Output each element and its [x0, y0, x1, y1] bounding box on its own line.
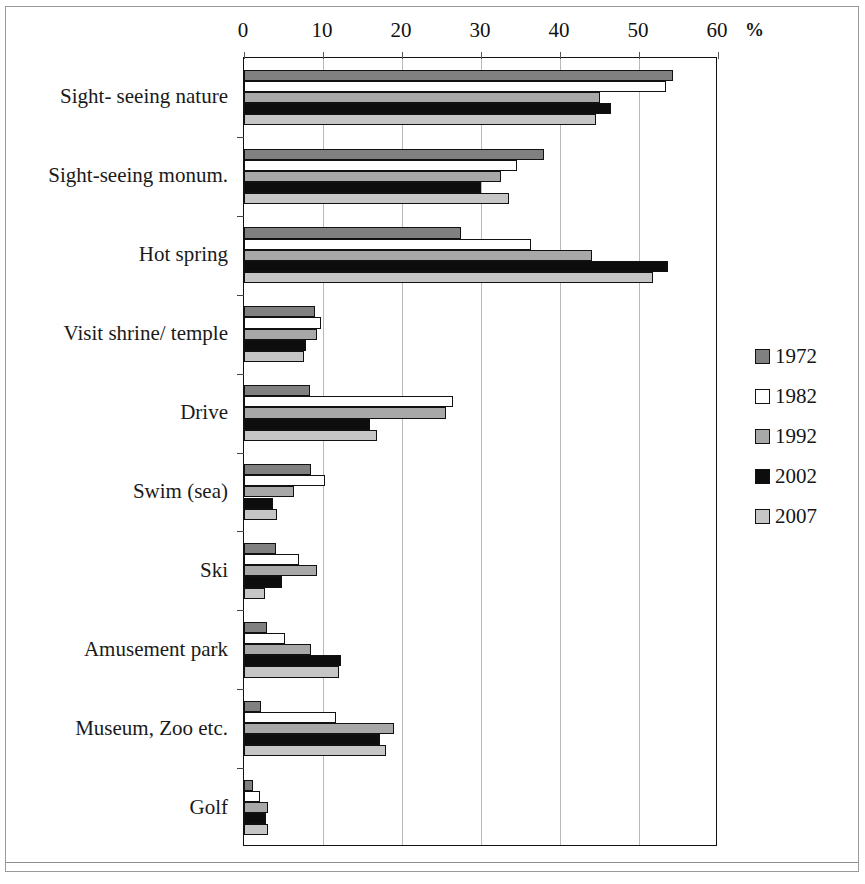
- category-band: [244, 137, 716, 216]
- category-label-text: Amusement park: [84, 638, 236, 660]
- category-label: Sight-seeing monum.: [0, 164, 236, 186]
- legend-item-1992: 1992: [755, 421, 855, 452]
- legend-label: 1992: [775, 426, 817, 447]
- category-band: [244, 768, 716, 847]
- bar-1982: [244, 633, 285, 644]
- legend-label: 2002: [775, 466, 817, 487]
- category-band: [244, 295, 716, 374]
- category-label: Visit shrine/ temple: [0, 322, 236, 344]
- bar-1992: [244, 486, 294, 497]
- bar-1972: [244, 385, 310, 396]
- category-label: Museum, Zoo etc.: [0, 717, 236, 739]
- bar-2007: [244, 745, 386, 756]
- bar-1992: [244, 92, 600, 103]
- x-axis-tick-mark: [718, 52, 719, 59]
- bar-2007: [244, 272, 653, 283]
- bar-1972: [244, 149, 544, 160]
- bar-1992: [244, 407, 446, 418]
- bar-1992: [244, 250, 592, 261]
- bar-2002: [244, 182, 481, 193]
- bar-1982: [244, 160, 517, 171]
- x-tick-label: 10: [312, 16, 333, 44]
- category-band: [244, 216, 716, 295]
- bar-1982: [244, 791, 260, 802]
- category-axis-tick: [237, 374, 244, 375]
- chart-legend: 19721982199220022007: [755, 341, 855, 541]
- legend-label: 2007: [775, 506, 817, 527]
- bar-1992: [244, 171, 501, 182]
- category-band: [244, 453, 716, 532]
- bar-2002: [244, 419, 370, 430]
- category-band: [244, 689, 716, 768]
- category-label-text: Hot spring: [139, 243, 236, 265]
- bar-1992: [244, 723, 394, 734]
- axis-unit-label: %: [745, 16, 764, 44]
- bar-2002: [244, 734, 380, 745]
- legend-label: 1982: [775, 386, 817, 407]
- bar-1972: [244, 780, 253, 791]
- category-label-text: Drive: [180, 401, 236, 423]
- bar-1982: [244, 475, 325, 486]
- bar-2007: [244, 430, 377, 441]
- x-tick-label: 50: [628, 16, 649, 44]
- legend-label: 1972: [775, 346, 817, 367]
- legend-swatch-icon: [755, 509, 770, 524]
- bar-1972: [244, 70, 673, 81]
- legend-item-2002: 2002: [755, 461, 855, 492]
- bar-2002: [244, 498, 273, 509]
- figure-bottom-rule: [6, 862, 858, 863]
- category-label: Drive: [0, 401, 236, 423]
- bar-1992: [244, 565, 317, 576]
- category-label: Swim (sea): [0, 480, 236, 502]
- bar-2002: [244, 813, 266, 824]
- bar-1982: [244, 554, 299, 565]
- bar-2007: [244, 509, 277, 520]
- bar-2007: [244, 351, 304, 362]
- plot-area: [243, 57, 717, 846]
- x-tick-label: 60: [707, 16, 728, 44]
- bar-2007: [244, 588, 265, 599]
- category-axis-tick: [237, 610, 244, 611]
- bar-2007: [244, 193, 509, 204]
- category-label: Hot spring: [0, 243, 236, 265]
- bar-1972: [244, 543, 276, 554]
- category-band: [244, 531, 716, 610]
- bar-1972: [244, 701, 261, 712]
- bar-2002: [244, 340, 306, 351]
- category-label: Sight- seeing nature: [0, 85, 236, 107]
- x-tick-label: 40: [549, 16, 570, 44]
- category-label-text: Swim (sea): [133, 480, 236, 502]
- category-label: Golf: [0, 796, 236, 818]
- bar-2007: [244, 824, 268, 835]
- bar-1982: [244, 317, 321, 328]
- category-axis-tick: [237, 531, 244, 532]
- legend-item-1972: 1972: [755, 341, 855, 372]
- category-label-text: Ski: [200, 559, 236, 581]
- category-band: [244, 610, 716, 689]
- category-axis-tick: [237, 137, 244, 138]
- legend-swatch-icon: [755, 469, 770, 484]
- bar-2002: [244, 261, 668, 272]
- bar-2002: [244, 103, 611, 114]
- category-axis-tick: [237, 216, 244, 217]
- bar-1982: [244, 81, 666, 92]
- category-label-text: Sight-seeing monum.: [48, 164, 236, 186]
- category-label-text: Visit shrine/ temple: [64, 322, 236, 344]
- x-tick-label: 30: [470, 16, 491, 44]
- category-label: Amusement park: [0, 638, 236, 660]
- bar-1992: [244, 329, 317, 340]
- x-tick-label: 0: [238, 16, 249, 44]
- x-axis-tick-labels: 0102030405060%: [0, 16, 865, 44]
- legend-swatch-icon: [755, 349, 770, 364]
- bar-1972: [244, 622, 267, 633]
- bar-1972: [244, 227, 461, 238]
- category-axis-tick: [237, 768, 244, 769]
- legend-swatch-icon: [755, 389, 770, 404]
- category-axis-tick: [237, 689, 244, 690]
- category-label-text: Golf: [190, 796, 237, 818]
- bar-1992: [244, 644, 311, 655]
- x-tick-label: 20: [391, 16, 412, 44]
- bar-1982: [244, 396, 453, 407]
- category-axis-tick: [237, 453, 244, 454]
- category-axis-tick: [237, 295, 244, 296]
